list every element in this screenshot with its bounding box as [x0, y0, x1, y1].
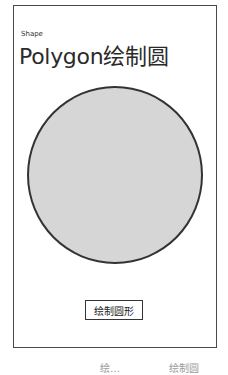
- bottom-caption: 绘… 绘制圆: [100, 360, 199, 375]
- caption-right: 绘制圆: [169, 363, 199, 374]
- polygon-circle: [27, 86, 203, 264]
- page-title: Polygon绘制圆: [19, 38, 168, 70]
- caption-left: 绘…: [100, 363, 120, 374]
- app-name: Shape: [21, 30, 43, 38]
- draw-circle-button[interactable]: 绘制圆形: [85, 300, 143, 320]
